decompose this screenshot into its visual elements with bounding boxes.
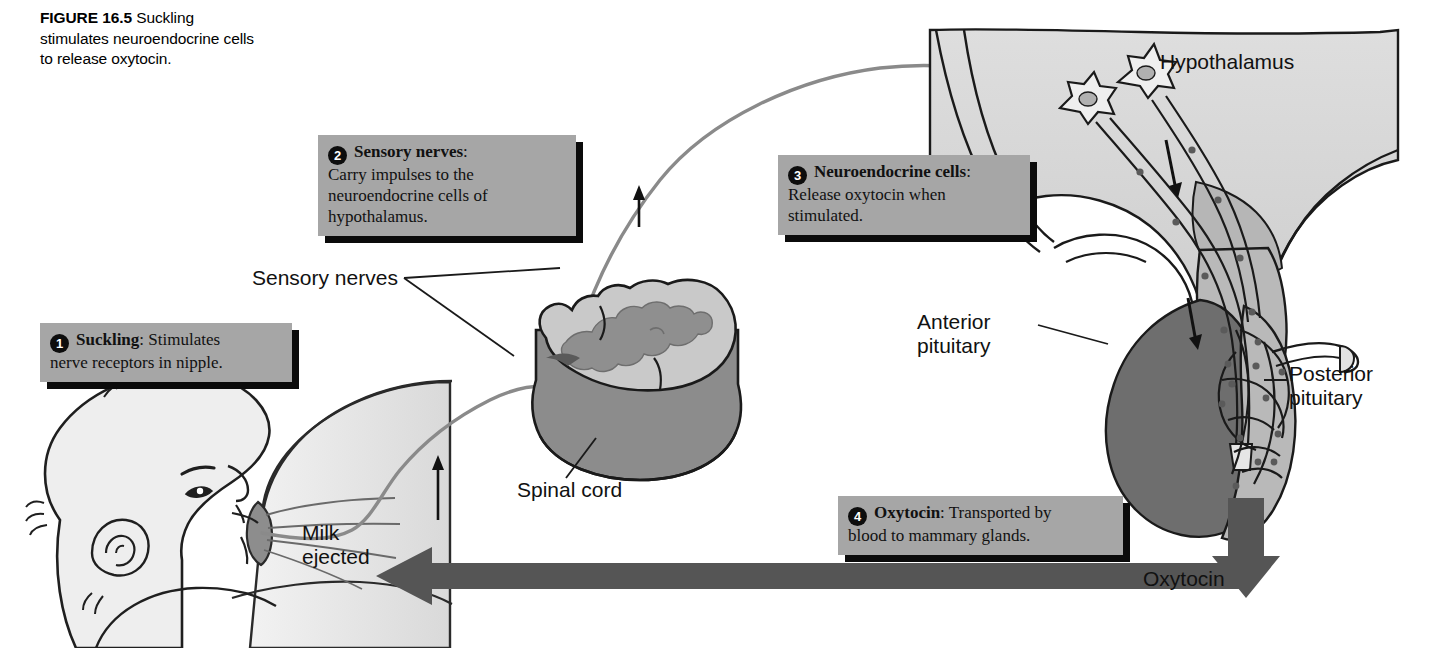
callout-separator: : xyxy=(463,142,468,161)
label-sensory-nerves: Sensory nerves xyxy=(252,266,398,290)
callout-number-badge: 3 xyxy=(788,166,807,185)
callout-panel: 4Oxytocin: Transported by blood to mamma… xyxy=(838,496,1123,555)
callout-box-2: 2Sensory nerves: Carry impulses to the n… xyxy=(318,135,576,236)
callout-number-badge: 1 xyxy=(50,334,69,353)
label-anterior-pituitary: Anterior pituitary xyxy=(917,310,991,357)
label-line-2: pituitary xyxy=(917,334,991,357)
suckling-infant-illustration xyxy=(26,372,452,648)
callout-box-4: 4Oxytocin: Transported by blood to mamma… xyxy=(838,496,1123,555)
callout-body-text: blood to mammary glands. xyxy=(848,526,1030,545)
callout-box-1: 1Suckling: Stimulates nerve receptors in… xyxy=(40,323,292,382)
callout-panel: 1Suckling: Stimulates nerve receptors in… xyxy=(40,323,292,382)
label-spinal-cord: Spinal cord xyxy=(517,478,622,502)
label-hypothalamus: Hypothalamus xyxy=(1160,50,1294,74)
figure-16-5: FIGURE 16.5 Suckling stimulates neuroend… xyxy=(0,0,1433,648)
label-line-1: Milk xyxy=(302,521,339,544)
label-line-1: Posterior xyxy=(1289,362,1373,385)
label-line-1: Anterior xyxy=(917,310,991,333)
callout-label: Oxytocin xyxy=(874,503,940,522)
figure-number: FIGURE 16.5 xyxy=(40,9,132,26)
anterior-pituitary-leader-line xyxy=(1038,325,1108,344)
label-line-2: ejected xyxy=(302,545,370,568)
callout-label: Sensory nerves xyxy=(354,142,463,161)
figure-caption: FIGURE 16.5 Suckling stimulates neuroend… xyxy=(40,8,255,70)
spinal-cord-illustration xyxy=(533,280,741,480)
callout-body-text: Release oxytocin when stimulated. xyxy=(788,185,946,225)
callout-panel: 2Sensory nerves: Carry impulses to the n… xyxy=(318,135,576,236)
callout-body-text: nerve receptors in nipple. xyxy=(50,353,223,372)
label-milk-ejected: Milk ejected xyxy=(302,521,370,568)
callout-panel: 3Neuroendocrine cells: Release oxytocin … xyxy=(778,155,1030,235)
label-oxytocin: Oxytocin xyxy=(1143,567,1225,591)
callout-first-line-rest: Transported by xyxy=(945,503,1052,522)
callout-body-text: Carry impulses to the neuroendocrine cel… xyxy=(328,165,488,226)
callout-separator: : xyxy=(966,162,971,181)
label-line-2: pituitary xyxy=(1289,386,1363,409)
callout-number-badge: 4 xyxy=(848,507,867,526)
callout-label: Neuroendocrine cells xyxy=(814,162,966,181)
nerve-direction-arrow-upper xyxy=(633,185,645,227)
callout-box-3: 3Neuroendocrine cells: Release oxytocin … xyxy=(778,155,1030,235)
label-posterior-pituitary: Posterior pituitary xyxy=(1289,362,1373,409)
callout-number-badge: 2 xyxy=(328,146,347,165)
callout-label: Suckling xyxy=(76,330,139,349)
callout-first-line-rest: Stimulates xyxy=(144,330,220,349)
